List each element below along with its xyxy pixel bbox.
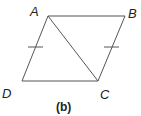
figure-caption: (b) — [56, 100, 71, 114]
segment-bc — [98, 16, 125, 81]
vertex-label-c: C — [100, 87, 110, 102]
vertex-label-a: A — [29, 4, 39, 19]
parallelogram-diagram: A B D C (b) — [0, 0, 141, 116]
vertex-label-b: B — [128, 6, 137, 21]
vertex-label-d: D — [2, 86, 11, 101]
segment-da — [22, 16, 48, 81]
diagonal-ac — [48, 16, 98, 81]
